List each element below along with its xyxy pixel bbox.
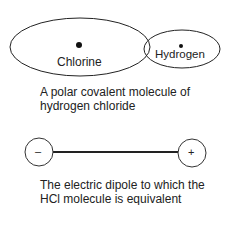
chlorine-label: Chlorine [57,55,102,69]
dipole-caption-line1: The electric dipole to which the [40,178,205,192]
negative-sign: – [35,144,41,158]
hydrogen-label: Hydrogen [155,47,205,61]
molecule-caption-line2: hydrogen chloride [40,99,135,113]
positive-sign: + [188,145,194,159]
chlorine-nucleus-dot [76,42,82,48]
molecule-caption-line1: A polar covalent molecule of [40,85,190,99]
dipole-caption-line2: HCl molecule is equivalent [40,192,181,205]
